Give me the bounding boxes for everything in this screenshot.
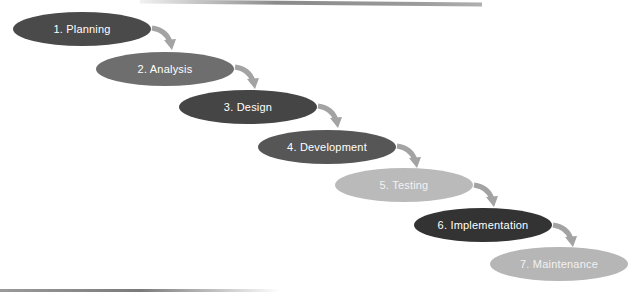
stage-label: 4. Development	[287, 141, 367, 153]
arrow-icon	[397, 146, 421, 168]
arrow-icon	[474, 185, 498, 207]
stage-3: 3. Design	[179, 90, 317, 124]
stage-2: 2. Analysis	[96, 52, 234, 86]
stage-7: 7. Maintenance	[490, 247, 628, 281]
stage-5: 5. Testing	[335, 168, 473, 202]
stage-label: 2. Analysis	[138, 63, 193, 75]
stage-label: 3. Design	[224, 101, 272, 113]
stage-label: 7. Maintenance	[520, 258, 598, 270]
arrow-icon	[318, 106, 342, 128]
stage-1: 1. Planning	[13, 12, 151, 46]
stage-4: 4. Development	[258, 130, 396, 164]
arrow-icon	[152, 28, 176, 50]
arrow-icon	[235, 67, 259, 89]
arrow-icon	[553, 225, 577, 247]
stage-label: 6. Implementation	[438, 219, 529, 231]
stage-label: 5. Testing	[380, 179, 429, 191]
stage-6: 6. Implementation	[414, 208, 552, 242]
stage-label: 1. Planning	[53, 23, 110, 35]
